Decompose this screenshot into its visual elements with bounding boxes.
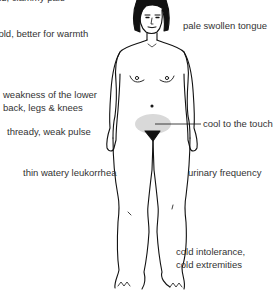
label-thready-weak-pulse: thready, weak pulse [7, 126, 91, 138]
label-cold-intolerance: cold intolerance, [176, 246, 245, 258]
label-cold-extremities: cold extremities [176, 259, 242, 271]
label-worse-for-cold: worse for cold, better for warmth [0, 28, 88, 40]
label-weakness-line1: weakness of the lower [3, 89, 97, 101]
left-leg-inner [142, 141, 153, 289]
right-leg-inner [153, 141, 170, 287]
left-leg-outer [113, 138, 119, 288]
label-thin-watery-leukorrhea: thin watery leukorrhea [23, 167, 116, 179]
label-cool-to-the-touch: cool to the touch [203, 118, 273, 130]
right-arm [184, 52, 197, 151]
label-pale-swollen-tongue: pale swollen tongue [183, 20, 267, 32]
label-urinary-frequency: urinary frequency [188, 167, 261, 179]
hair-outline [134, 0, 169, 32]
label-aversion-to-cold: aversion to cold, clammy pale [0, 0, 65, 4]
label-weakness-line2: back, legs & knees [3, 102, 83, 114]
